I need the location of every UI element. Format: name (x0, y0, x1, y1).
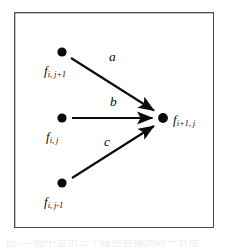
node-label-right-subscript: i+1, j (177, 118, 195, 128)
arrow-label-b: b (110, 95, 117, 109)
caption-sliver: 图 — 图中显示三个路径点指向同一节点 (0, 240, 228, 248)
node-right-dot (158, 113, 168, 123)
node-label-middle-left-subscript: i, j (50, 135, 59, 145)
node-top-left-dot (57, 47, 66, 56)
node-label-right: fi+1, j (173, 111, 195, 128)
arrow-label-c: c (104, 135, 110, 149)
caption-text: 图 — 图中显示三个路径点指向同一节点 (6, 240, 199, 248)
node-label-top-left: fi, j+1 (44, 62, 66, 79)
node-label-top-left-subscript: i, j+1 (48, 69, 66, 79)
node-bottom-left-dot (57, 178, 66, 187)
figure-screenshot: fi, j+1 fi, j fi, j-1 fi+1, j a b c 图 — … (0, 0, 228, 248)
node-label-bottom-left: fi, j-1 (44, 193, 63, 210)
node-label-middle-left: fi, j (46, 128, 58, 145)
arrow-c-line (72, 126, 154, 178)
arrow-c-group (72, 126, 154, 178)
arrow-label-a: a (109, 50, 116, 64)
node-label-bottom-left-subscript: i, j-1 (48, 200, 63, 210)
node-middle-left-dot (57, 113, 66, 122)
